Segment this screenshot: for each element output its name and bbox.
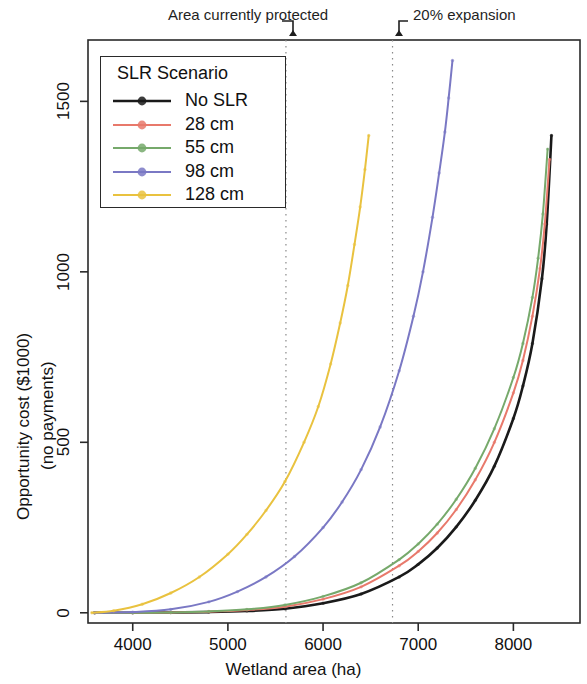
annotation-arrows [282, 21, 408, 36]
legend-item-label: 55 cm [185, 137, 234, 158]
legend-item-55-cm: 55 cm [111, 136, 281, 159]
legend-key-swatch [111, 160, 173, 183]
legend-item-28-cm: 28 cm [111, 113, 281, 136]
y-tick-label: 1000 [54, 253, 74, 291]
x-tick-label: 4000 [107, 635, 159, 655]
legend-box: SLR Scenario No SLR28 cm55 cm98 cm128 cm [100, 56, 286, 208]
y-tick-label: 500 [54, 428, 74, 456]
legend-item-label: No SLR [185, 90, 248, 111]
figure-container: Area currently protected 20% expansion W… [0, 0, 587, 684]
chart-canvas [0, 0, 587, 684]
series-line-55-cm [93, 147, 549, 614]
annotation-area-protected: Area currently protected [168, 6, 328, 23]
y-tick-label: 1500 [54, 82, 74, 120]
x-tick-label: 7000 [392, 635, 444, 655]
legend-key-swatch [111, 183, 173, 206]
x-tick-label: 6000 [297, 635, 349, 655]
series-line-28-cm [93, 158, 551, 615]
x-axis-title: Wetland area (ha) [0, 660, 587, 680]
legend-item-no-slr: No SLR [111, 89, 281, 112]
x-tick-label: 5000 [202, 635, 254, 655]
legend-item-label: 28 cm [185, 114, 234, 135]
legend-key-swatch [111, 89, 173, 112]
y-axis-title-line1: Opportunity cost ($1000) [14, 333, 34, 520]
x-tick-label: 8000 [487, 635, 539, 655]
y-tick-label: 0 [54, 608, 74, 617]
legend-title: SLR Scenario [117, 63, 228, 84]
legend-key-swatch [111, 113, 173, 136]
legend-item-128-cm: 128 cm [111, 183, 281, 206]
legend-item-label: 98 cm [185, 161, 234, 182]
annotation-expansion: 20% expansion [413, 6, 516, 23]
legend-item-label: 128 cm [185, 184, 244, 205]
legend-key-swatch [111, 136, 173, 159]
legend-item-98-cm: 98 cm [111, 160, 281, 183]
